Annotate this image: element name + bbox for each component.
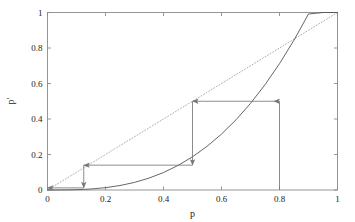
y-axis-title: p'	[6, 98, 16, 105]
x-tick-label: 0.2	[100, 195, 111, 204]
x-tick-label: 0	[45, 195, 50, 204]
y-tick-label: 1	[38, 8, 43, 17]
x-tick-label: 0.4	[158, 195, 169, 204]
y-tick-label: 0.2	[31, 150, 42, 159]
y-tick-label: 0.8	[31, 44, 42, 53]
y-tick-label: 0.4	[31, 115, 42, 124]
plot-canvas	[0, 0, 355, 222]
x-axis-title: p	[190, 209, 195, 219]
cobweb-arrows	[48, 101, 280, 190]
y-tick-label: 0.6	[31, 79, 42, 88]
x-tick-label: 1	[335, 195, 340, 204]
x-tick-label: 0.8	[274, 195, 285, 204]
y-tick-label: 0	[38, 186, 43, 195]
chart-figure: 00.20.40.60.81 00.20.40.60.81 p p'	[0, 0, 355, 222]
x-tick-label: 0.6	[216, 195, 227, 204]
